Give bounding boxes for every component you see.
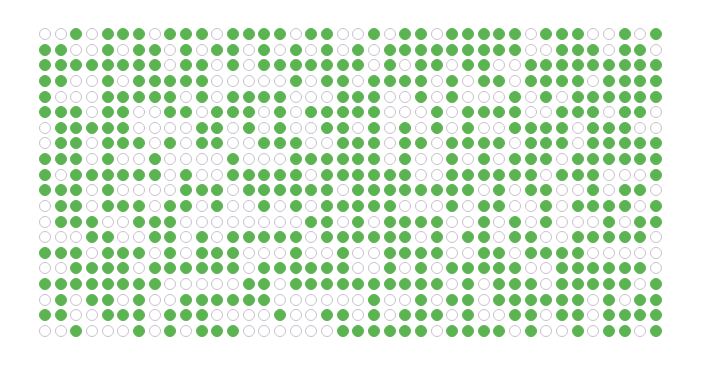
filled-dot [258, 262, 270, 274]
filled-dot [180, 106, 192, 118]
filled-dot [556, 294, 568, 306]
filled-dot [305, 106, 317, 118]
filled-dot [39, 309, 51, 321]
empty-dot [227, 309, 239, 321]
filled-dot [572, 91, 584, 103]
filled-dot [368, 325, 380, 337]
filled-dot [258, 137, 270, 149]
empty-dot [556, 153, 568, 165]
filled-dot [619, 278, 631, 290]
empty-dot [180, 153, 192, 165]
empty-dot [337, 184, 349, 196]
empty-dot [117, 44, 129, 56]
filled-dot [290, 75, 302, 87]
empty-dot [149, 247, 161, 259]
empty-dot [462, 91, 474, 103]
filled-dot [603, 75, 615, 87]
filled-dot [133, 75, 145, 87]
empty-dot [243, 325, 255, 337]
filled-dot [117, 59, 129, 71]
filled-dot [133, 325, 145, 337]
filled-dot [305, 216, 317, 228]
filled-dot [321, 216, 333, 228]
filled-dot [384, 278, 396, 290]
filled-dot [321, 169, 333, 181]
empty-dot [509, 184, 521, 196]
filled-dot [55, 216, 67, 228]
filled-dot [603, 294, 615, 306]
filled-dot [39, 153, 51, 165]
empty-dot [572, 184, 584, 196]
filled-dot [180, 44, 192, 56]
filled-dot [384, 169, 396, 181]
empty-dot [227, 184, 239, 196]
filled-dot [352, 231, 364, 243]
filled-dot [227, 59, 239, 71]
filled-dot [117, 106, 129, 118]
filled-dot [478, 169, 490, 181]
filled-dot [587, 184, 599, 196]
empty-dot [258, 153, 270, 165]
filled-dot [258, 200, 270, 212]
filled-dot [650, 309, 662, 321]
filled-dot [117, 247, 129, 259]
filled-dot [431, 278, 443, 290]
filled-dot [462, 106, 474, 118]
filled-dot [384, 216, 396, 228]
empty-dot [243, 44, 255, 56]
empty-dot [117, 294, 129, 306]
empty-dot [462, 153, 474, 165]
filled-dot [540, 184, 552, 196]
filled-dot [196, 122, 208, 134]
filled-dot [415, 184, 427, 196]
filled-dot [227, 231, 239, 243]
empty-dot [274, 278, 286, 290]
empty-dot [149, 325, 161, 337]
filled-dot [634, 294, 646, 306]
filled-dot [149, 262, 161, 274]
filled-dot [164, 309, 176, 321]
empty-dot [634, 325, 646, 337]
empty-dot [399, 294, 411, 306]
filled-dot [509, 28, 521, 40]
empty-dot [180, 247, 192, 259]
empty-dot [446, 106, 458, 118]
filled-dot [540, 122, 552, 134]
empty-dot [117, 153, 129, 165]
empty-dot [572, 216, 584, 228]
empty-dot [478, 91, 490, 103]
empty-dot [556, 216, 568, 228]
filled-dot [587, 91, 599, 103]
filled-dot [86, 169, 98, 181]
filled-dot [180, 75, 192, 87]
empty-dot [368, 59, 380, 71]
empty-dot [211, 91, 223, 103]
filled-dot [462, 122, 474, 134]
filled-dot [55, 294, 67, 306]
filled-dot [164, 137, 176, 149]
filled-dot [321, 122, 333, 134]
empty-dot [352, 122, 364, 134]
filled-dot [415, 262, 427, 274]
empty-dot [117, 216, 129, 228]
filled-dot [525, 231, 537, 243]
filled-dot [290, 231, 302, 243]
empty-dot [305, 231, 317, 243]
filled-dot [399, 75, 411, 87]
empty-dot [446, 122, 458, 134]
empty-dot [540, 106, 552, 118]
filled-dot [572, 325, 584, 337]
filled-dot [321, 231, 333, 243]
empty-dot [650, 262, 662, 274]
filled-dot [415, 294, 427, 306]
filled-dot [305, 59, 317, 71]
empty-dot [556, 200, 568, 212]
empty-dot [540, 309, 552, 321]
filled-dot [180, 200, 192, 212]
empty-dot [525, 91, 537, 103]
filled-dot [446, 153, 458, 165]
empty-dot [384, 122, 396, 134]
filled-dot [540, 247, 552, 259]
empty-dot [337, 216, 349, 228]
filled-dot [70, 122, 82, 134]
